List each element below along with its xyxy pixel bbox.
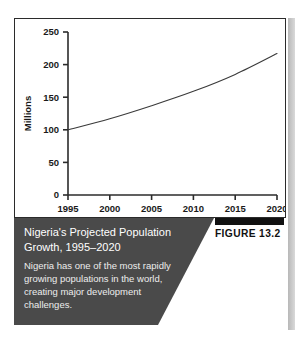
caption-inner: Nigeria's Projected Population Growth, 1… xyxy=(14,218,214,311)
y-axis-tick-label: 200 xyxy=(43,59,59,70)
caption-title: Nigeria's Projected Population Growth, 1… xyxy=(24,225,184,254)
caption-body: Nigeria has one of the most rapidly grow… xyxy=(24,259,174,311)
x-axis-tick-label: 2005 xyxy=(141,203,163,214)
figure-badge-label: FIGURE 13.2 xyxy=(215,227,279,239)
y-axis-title: Millions xyxy=(22,96,33,131)
population-trend-line xyxy=(68,54,277,130)
population-line-chart: 050100150200250199520002005201020152020M… xyxy=(15,19,285,217)
figure-badge-bar xyxy=(215,218,284,225)
x-axis-tick-label: 2020 xyxy=(266,203,285,214)
x-axis-tick-label: 2000 xyxy=(99,203,120,214)
caption-block: Nigeria's Projected Population Growth, 1… xyxy=(14,218,214,325)
chart-plot-frame: 050100150200250199520002005201020152020M… xyxy=(14,18,286,218)
y-axis-tick-label: 100 xyxy=(43,124,59,135)
y-axis-tick-label: 0 xyxy=(54,189,59,200)
x-axis-tick-label: 2015 xyxy=(225,203,247,214)
y-axis-tick-label: 250 xyxy=(43,26,59,37)
figure-badge: FIGURE 13.2 xyxy=(215,218,284,239)
figure-container: 050100150200250199520002005201020152020M… xyxy=(0,0,307,343)
x-axis-tick-label: 2010 xyxy=(183,203,204,214)
y-axis-tick-label: 150 xyxy=(43,92,59,103)
page-edge-shadow xyxy=(288,18,295,330)
y-axis-tick-label: 50 xyxy=(48,157,59,168)
x-axis-tick-label: 1995 xyxy=(57,203,79,214)
